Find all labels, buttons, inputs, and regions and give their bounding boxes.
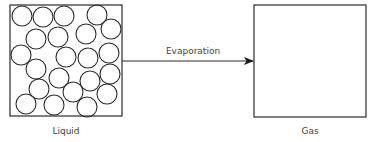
molecule: [12, 6, 32, 26]
evaporation-arrow: Evaporation: [122, 46, 253, 61]
molecule: [48, 27, 68, 47]
molecule: [33, 7, 53, 27]
molecule: [54, 6, 74, 26]
molecule: [100, 64, 120, 84]
molecule: [97, 84, 117, 104]
gas-box: [254, 5, 366, 117]
molecule: [11, 45, 31, 65]
evaporation-label: Evaporation: [166, 46, 220, 56]
molecule: [56, 47, 76, 67]
evaporation-diagram: Liquid Evaporation Gas: [0, 0, 373, 142]
liquid-container: Liquid: [10, 5, 122, 136]
gas-label: Gas: [301, 126, 318, 136]
molecule: [76, 24, 96, 44]
molecule: [16, 94, 36, 114]
molecule: [99, 43, 119, 63]
molecule: [26, 59, 46, 79]
liquid-particles: [11, 5, 121, 117]
liquid-label: Liquid: [52, 126, 79, 136]
gas-container: Gas: [254, 5, 366, 136]
molecule: [78, 48, 98, 68]
molecule: [101, 19, 121, 39]
molecule: [77, 97, 97, 117]
molecule: [63, 82, 83, 102]
molecule: [80, 71, 100, 91]
molecule: [26, 29, 46, 49]
molecule: [44, 95, 64, 115]
